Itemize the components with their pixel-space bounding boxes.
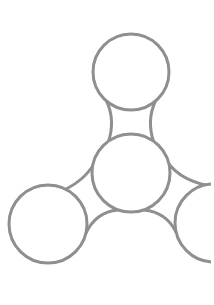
- top-lobe-circle: [93, 34, 169, 110]
- connector-left-lower: [86, 210, 118, 233]
- center-hub-circle: [92, 134, 170, 212]
- fidget-spinner-drawing: [0, 0, 214, 305]
- left-lobe-circle: [9, 185, 87, 263]
- connector-top-left: [106, 100, 112, 143]
- fidget-spinner-icon: [0, 0, 214, 305]
- right-lobe-circle: [175, 184, 214, 262]
- connector-right-lower: [144, 210, 176, 232]
- connector-top-right: [150, 100, 156, 143]
